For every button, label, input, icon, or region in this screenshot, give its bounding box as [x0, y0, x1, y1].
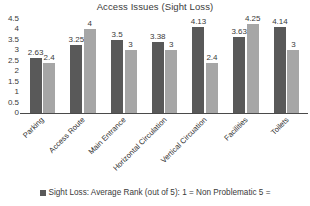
bar-group: 4.143 — [266, 19, 307, 113]
bar-value-label: 3 — [291, 41, 295, 50]
bar[interactable]: 3.5 — [111, 40, 123, 113]
bar-group: 3.634.25 — [226, 19, 267, 113]
bar-group: 3.53 — [103, 19, 144, 113]
y-axis-tick: 2.5 — [8, 57, 19, 65]
bar-group: 3.383 — [144, 19, 185, 113]
bar[interactable]: 3 — [165, 50, 177, 113]
x-axis-slot: Facilities — [226, 113, 267, 175]
y-axis-tick: 2 — [15, 67, 19, 75]
bar[interactable]: 3.63 — [233, 37, 245, 113]
bar[interactable]: 4.14 — [274, 27, 286, 113]
bar-group: 3.254 — [63, 19, 104, 113]
bar[interactable]: 3 — [125, 50, 137, 113]
x-axis-tick-label: Parking — [22, 116, 46, 140]
y-axis-tick: 3.5 — [8, 36, 19, 44]
bar[interactable]: 3 — [287, 50, 299, 113]
bar[interactable]: 4.13 — [192, 27, 204, 113]
bar-value-label: 4.25 — [245, 15, 261, 24]
bar-value-label: 4.13 — [191, 18, 207, 27]
bar-chart: Access Issues (Sight Loss) 4.543.532.521… — [0, 0, 310, 206]
y-axis: 4.543.532.521.510.50 — [0, 19, 20, 113]
y-axis-tick: 1 — [15, 88, 19, 96]
x-axis-labels: ParkingAccess RouteMain EntranceHorizont… — [22, 113, 307, 175]
bar[interactable]: 3.25 — [70, 45, 82, 113]
bar[interactable]: 3.38 — [152, 42, 164, 113]
y-axis-tick: 0.5 — [8, 99, 19, 107]
y-axis-tick: 1.5 — [8, 78, 19, 86]
bar-value-label: 2.63 — [28, 49, 44, 58]
bar-group: 2.632.4 — [22, 19, 63, 113]
legend-swatch — [40, 190, 46, 196]
bar[interactable]: 4 — [84, 29, 96, 113]
legend: Sight Loss: Average Rank (out of 5): 1 =… — [0, 188, 310, 197]
y-axis-tick: 4 — [15, 25, 19, 33]
legend-label: Sight Loss: Average Rank (out of 5): 1 =… — [49, 188, 271, 197]
bar-value-label: 3.63 — [231, 28, 247, 37]
x-axis-slot: Toilets — [266, 113, 307, 175]
y-axis-tick: 3 — [15, 46, 19, 54]
bar-value-label: 3.25 — [69, 36, 85, 45]
plot-area: 2.632.43.2543.533.3834.132.43.634.254.14… — [22, 19, 307, 113]
y-axis-tick: 4.5 — [8, 15, 19, 23]
x-axis-slot: Vertical Circuation — [185, 113, 226, 175]
bar[interactable]: 4.25 — [247, 24, 259, 113]
bar-value-label: 4.14 — [272, 18, 288, 27]
bar-value-label: 4 — [88, 20, 92, 29]
bar-value-label: 3.38 — [150, 33, 166, 42]
chart-title: Access Issues (Sight Loss) — [0, 1, 310, 12]
bar[interactable]: 2.4 — [206, 63, 218, 113]
y-axis-tick: 0 — [15, 109, 19, 117]
bar-group: 4.132.4 — [185, 19, 226, 113]
x-axis-tick-label: Facilities — [223, 116, 250, 143]
bar-value-label: 3 — [169, 41, 173, 50]
bar[interactable]: 2.4 — [43, 63, 55, 113]
x-axis-tick-label: Toilets — [269, 116, 290, 137]
bar-value-label: 2.4 — [44, 54, 55, 63]
bar-value-label: 2.4 — [206, 54, 217, 63]
bar-value-label: 3.5 — [111, 31, 122, 40]
bar[interactable]: 2.63 — [30, 58, 42, 113]
bar-value-label: 3 — [128, 41, 132, 50]
